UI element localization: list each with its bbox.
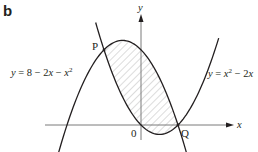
panel-label: b [3, 2, 12, 19]
point-q-label: Q [181, 127, 189, 139]
y-axis-arrow-icon [139, 14, 144, 22]
curve-downward-label: y = 8 − 2x − x2 [10, 66, 73, 78]
point-p-marker [103, 49, 106, 52]
curve-upward-label: y = x2 − 2x [207, 67, 253, 79]
origin-label: 0 [131, 127, 137, 139]
point-p-label: P [92, 40, 98, 52]
point-q-marker [177, 124, 180, 127]
diagram: b x y 0 P Q y = 8 − 2x − x2 y = x2 − 2x [0, 0, 258, 152]
y-axis-label: y [137, 2, 143, 13]
x-axis-arrow-icon [226, 123, 234, 128]
x-axis-label: x [236, 119, 242, 130]
